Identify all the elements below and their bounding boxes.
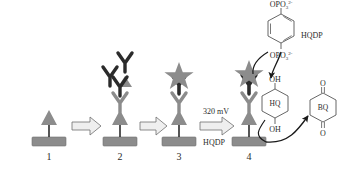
bq-bottom-group: O — [320, 129, 326, 138]
hq-ring-label: HQ — [270, 99, 281, 108]
arrow-label-potential: 320 mV — [203, 107, 229, 116]
free-antibody-dark-b — [118, 53, 132, 72]
arrow-label-substrate: HQDP — [203, 138, 225, 147]
capture-antibody-gray-3 — [172, 93, 186, 112]
schematic-diagram: 1 2 — [0, 0, 349, 180]
electrode-bar-3 — [162, 137, 196, 146]
step-3-group: 3 — [162, 62, 196, 162]
arrow-1-2 — [72, 117, 101, 135]
molecule-bq: O O BQ — [310, 79, 336, 138]
electrode-bar-1 — [32, 137, 66, 146]
antigen-triangle-1 — [41, 110, 57, 125]
figure-canvas: 1 2 — [0, 0, 349, 180]
bq-ring-label: BQ — [318, 103, 329, 112]
hqdp-ring — [268, 14, 294, 43]
hqdp-name-label: HQDP — [301, 31, 323, 40]
step-label-4: 4 — [247, 151, 252, 162]
step-label-3: 3 — [177, 151, 182, 162]
step-2-group: 2 — [103, 53, 137, 162]
bq-top-group: O — [320, 79, 326, 88]
capture-antibody-gray-4 — [242, 93, 256, 112]
hqdp-top-group: OPO32- — [270, 0, 293, 10]
arrow-2-3 — [140, 117, 167, 135]
molecule-hq: OH OH HQ — [262, 75, 288, 134]
arrow-3-4: 320 mV HQDP — [200, 107, 234, 147]
step-label-1: 1 — [47, 151, 52, 162]
free-antibody-dark-a — [103, 67, 117, 86]
step-4-group: 4 — [232, 60, 266, 162]
step-1-group: 1 — [32, 110, 66, 162]
molecule-hqdp: OPO32- OPO32- HQDP — [268, 0, 323, 61]
step-label-2: 2 — [118, 151, 123, 162]
hq-bottom-group: OH — [269, 125, 281, 134]
electrode-bar-2 — [103, 137, 137, 146]
